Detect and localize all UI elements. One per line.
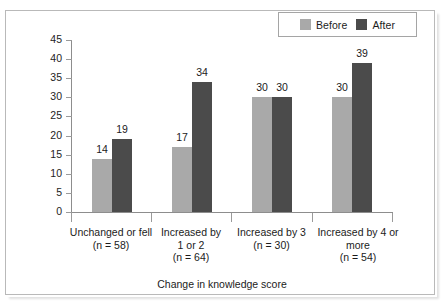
y-tick-mark — [66, 78, 72, 79]
x-category-line: (n = 64) — [151, 251, 231, 264]
y-tick-mark — [66, 155, 72, 156]
bar-before-group2 — [172, 147, 192, 212]
chart-legend: Before After — [278, 12, 417, 37]
y-tick-label: 40 — [50, 52, 62, 64]
y-tick-mark — [66, 40, 72, 41]
x-category-label-4: Increased by 4 or more (n = 54) — [310, 226, 406, 264]
x-axis-tick-1 — [151, 213, 152, 222]
x-category-line: (n = 58) — [66, 239, 156, 252]
y-tick-mark — [66, 116, 72, 117]
y-tick-label: 20 — [50, 129, 62, 141]
x-axis-line — [71, 212, 393, 213]
y-tick-label: 0 — [56, 205, 62, 217]
bar-value-after-group1: 19 — [106, 123, 138, 135]
bar-value-before-group2: 17 — [166, 131, 198, 143]
x-category-line: Increased by — [151, 226, 231, 239]
bar-value-after-group2: 34 — [186, 66, 218, 78]
x-category-line: Increased by 3 — [229, 226, 314, 239]
bar-before-group4 — [332, 97, 352, 212]
x-axis-title: Change in knowledge score — [0, 278, 444, 290]
bar-value-after-group3: 30 — [266, 81, 298, 93]
legend-swatch-before — [300, 19, 311, 30]
legend-item-before: Before — [300, 19, 348, 31]
bar-after-group3 — [272, 97, 292, 212]
y-tick-label: 35 — [50, 71, 62, 83]
x-category-line: Increased by 4 or — [310, 226, 406, 239]
x-category-line: (n = 30) — [229, 239, 314, 252]
bar-before-group1 — [92, 159, 112, 213]
y-tick-mark — [66, 59, 72, 60]
legend-label-before: Before — [316, 19, 348, 31]
y-tick-label: 15 — [50, 148, 62, 160]
y-tick-mark — [66, 193, 72, 194]
x-category-label-1: Unchanged or fell (n = 58) — [66, 226, 156, 251]
plot-area: 45 40 35 30 25 20 15 10 — [72, 40, 392, 212]
x-axis-tick-start — [71, 213, 72, 222]
x-category-label-3: Increased by 3 (n = 30) — [229, 226, 314, 251]
x-category-label-2: Increased by 1 or 2 (n = 64) — [151, 226, 231, 264]
x-category-line: Unchanged or fell — [66, 226, 156, 239]
x-category-line: more — [310, 239, 406, 252]
bar-before-group3 — [252, 97, 272, 212]
y-tick-mark — [66, 136, 72, 137]
y-tick-label: 5 — [56, 186, 62, 198]
bar-value-before-group4: 30 — [326, 81, 358, 93]
y-tick-mark — [66, 97, 72, 98]
x-axis-tick-3 — [312, 213, 313, 222]
x-category-line: (n = 54) — [310, 251, 406, 264]
legend-label-after: After — [372, 19, 395, 31]
y-tick-label: 45 — [50, 33, 62, 45]
x-category-line: 1 or 2 — [151, 239, 231, 252]
legend-item-after: After — [356, 19, 395, 31]
bar-value-after-group4: 39 — [346, 47, 378, 59]
y-tick-mark — [66, 174, 72, 175]
y-tick-label: 10 — [50, 167, 62, 179]
y-tick-label: 30 — [50, 90, 62, 102]
chart-screenshot: Before After 45 40 35 30 25 — [0, 0, 444, 305]
x-axis-tick-end — [392, 213, 393, 222]
bar-value-before-group1: 14 — [86, 143, 118, 155]
y-tick-label: 25 — [50, 109, 62, 121]
bar-after-group2 — [192, 82, 212, 212]
legend-swatch-after — [356, 19, 367, 30]
x-axis-tick-2 — [231, 213, 232, 222]
